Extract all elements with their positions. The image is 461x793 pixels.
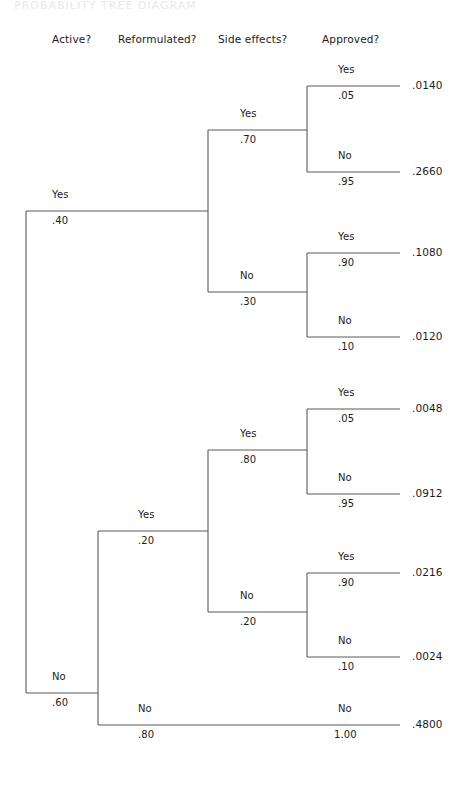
branch-label-approved-4-yes: Yes (338, 551, 354, 562)
branch-label-se-upper-no: No (240, 270, 254, 281)
column-header-reformulated: Reformulated? (118, 33, 197, 45)
branch-label-approved-2-no: No (338, 315, 352, 326)
branch-label-reform-no: No (138, 703, 152, 714)
branch-prob-approved-terminal-no: 1.00 (334, 729, 357, 740)
column-header-approved: Approved? (322, 33, 379, 45)
branch-prob-se-lower-yes: .80 (240, 454, 256, 465)
column-header-active: Active? (52, 33, 91, 45)
branch-prob-active-no: .60 (52, 697, 68, 708)
branch-label-reform-yes: Yes (138, 509, 154, 520)
outcome-value-7: .0216 (412, 566, 443, 578)
outcome-value-5: .0048 (412, 402, 443, 414)
outcome-value-1: .0140 (412, 79, 443, 91)
branch-label-approved-terminal-no: No (338, 703, 352, 714)
column-header-side-effects: Side effects? (218, 33, 287, 45)
branch-prob-approved-2-no: .10 (338, 341, 354, 352)
branch-label-approved-4-no: No (338, 635, 352, 646)
branch-prob-se-upper-no: .30 (240, 296, 256, 307)
branch-prob-reform-no: .80 (138, 729, 154, 740)
branch-label-se-upper-yes: Yes (240, 108, 256, 119)
probability-tree-canvas (0, 0, 461, 793)
branch-label-approved-3-yes: Yes (338, 387, 354, 398)
branch-label-approved-3-no: No (338, 472, 352, 483)
branch-label-approved-2-yes: Yes (338, 231, 354, 242)
outcome-value-6: .0912 (412, 487, 443, 499)
branch-prob-se-upper-yes: .70 (240, 134, 256, 145)
outcome-value-9: .4800 (412, 718, 443, 730)
branch-prob-approved-1-yes: .05 (338, 90, 354, 101)
branch-prob-approved-3-yes: .05 (338, 413, 354, 424)
outcome-value-8: .0024 (412, 650, 443, 662)
branch-label-approved-1-no: No (338, 150, 352, 161)
branch-prob-reform-yes: .20 (138, 535, 154, 546)
outcome-value-3: .1080 (412, 246, 443, 258)
branch-label-approved-1-yes: Yes (338, 64, 354, 75)
branch-label-active-no: No (52, 671, 66, 682)
branch-prob-approved-4-no: .10 (338, 661, 354, 672)
branch-label-se-lower-no: No (240, 590, 254, 601)
branch-prob-active-yes: .40 (52, 215, 68, 226)
branch-prob-approved-2-yes: .90 (338, 257, 354, 268)
branch-prob-approved-1-no: .95 (338, 176, 354, 187)
branch-prob-approved-4-yes: .90 (338, 577, 354, 588)
branch-prob-approved-3-no: .95 (338, 498, 354, 509)
branch-label-se-lower-yes: Yes (240, 428, 256, 439)
outcome-value-2: .2660 (412, 165, 443, 177)
branch-label-active-yes: Yes (52, 189, 68, 200)
branch-prob-se-lower-no: .20 (240, 616, 256, 627)
outcome-value-4: .0120 (412, 330, 443, 342)
